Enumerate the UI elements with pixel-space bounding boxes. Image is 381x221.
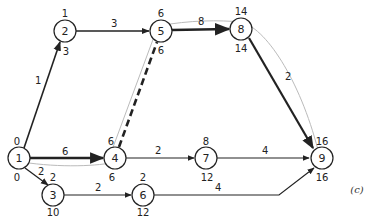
- network-diagram: 1 6 2 3 2 8 2 4 2 4 1 0 0 2 1 3 3 2 10: [0, 0, 381, 221]
- node-3-label: 3: [50, 189, 57, 202]
- node-4-label: 4: [112, 152, 119, 165]
- node-7-late: 12: [201, 172, 214, 183]
- node-1-early: 0: [14, 136, 20, 147]
- node-6-label: 6: [140, 189, 147, 202]
- node-8: 8 14 14: [230, 6, 252, 54]
- node-5-label: 5: [158, 25, 165, 38]
- edge-8-9: [249, 38, 313, 148]
- node-5-early: 6: [158, 8, 164, 19]
- node-9-late: 16: [316, 172, 329, 183]
- node-8-label: 8: [238, 23, 245, 36]
- node-8-early: 14: [235, 6, 248, 17]
- edge-1-2: [24, 42, 60, 148]
- edge-label-4-7: 2: [155, 145, 161, 156]
- node-3-late: 10: [47, 207, 60, 218]
- node-7: 7 8 12: [195, 136, 217, 183]
- edge-label-1-3: 2: [38, 166, 44, 177]
- edge-label-8-9: 2: [285, 71, 291, 82]
- edge-label-2-5: 3: [111, 18, 117, 29]
- node-4-late: 6: [109, 172, 115, 183]
- node-3: 3 2 10: [42, 172, 64, 218]
- edge-label-1-2: 1: [35, 75, 41, 86]
- edge-label-1-4: 6: [62, 146, 68, 157]
- node-6-early: 2: [140, 172, 146, 183]
- edge-1-3: [25, 168, 48, 185]
- node-3-early: 2: [50, 172, 56, 183]
- pencil-trace: [22, 21, 318, 166]
- node-5-late: 6: [158, 45, 164, 56]
- edge-label-6-9: 4: [215, 182, 221, 193]
- node-9-label: 9: [319, 152, 326, 165]
- node-4-early: 6: [108, 136, 114, 147]
- node-7-label: 7: [203, 152, 210, 165]
- figure-caption: (c): [350, 184, 364, 195]
- node-1-late: 0: [14, 172, 20, 183]
- node-2-early: 1: [62, 8, 68, 19]
- node-9-early: 16: [316, 136, 329, 147]
- edge-label-3-6: 2: [95, 182, 101, 193]
- edge-label-7-9: 4: [262, 145, 268, 156]
- node-9: 9 16 16: [311, 136, 333, 183]
- edge-5-8: [172, 29, 229, 30]
- node-2-late: 3: [63, 46, 69, 57]
- node-2-label: 2: [62, 25, 69, 38]
- node-6-late: 12: [137, 207, 150, 218]
- nodes: 1 0 0 2 1 3 3 2 10 4 6 6 5 6: [8, 6, 333, 218]
- edge-6-9: [154, 168, 314, 195]
- edge-label-5-8: 8: [198, 16, 204, 27]
- node-6: 6 2 12: [132, 172, 154, 218]
- node-1: 1 0 0: [8, 136, 30, 183]
- node-7-early: 8: [203, 136, 209, 147]
- node-8-late: 14: [235, 43, 248, 54]
- edge-4-5-dummy: [119, 42, 157, 147]
- node-1-label: 1: [16, 152, 23, 165]
